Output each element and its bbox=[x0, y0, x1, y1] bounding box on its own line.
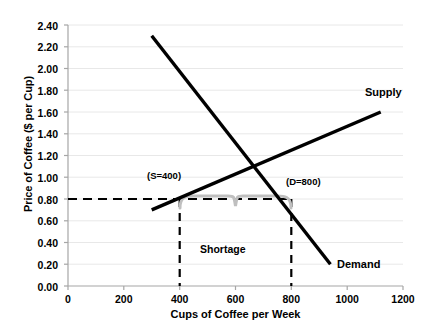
y-tick-label: 2.40 bbox=[14, 20, 58, 32]
y-tick-label: 1.40 bbox=[14, 128, 58, 140]
y-axis-title: Price of Coffee ($ per Cup) bbox=[22, 24, 34, 264]
y-tick-label: 1.20 bbox=[14, 150, 58, 162]
demand-curve-label: Demand bbox=[337, 258, 380, 270]
supply-quantity-annotation: (S=400) bbox=[147, 170, 181, 181]
supply-demand-chart bbox=[0, 0, 421, 334]
x-tick-label: 800 bbox=[266, 293, 316, 305]
x-tick-label: 1200 bbox=[378, 293, 421, 305]
y-tick-label: 0.60 bbox=[14, 215, 58, 227]
y-tick-label: 0.80 bbox=[14, 194, 58, 206]
y-tick-label: 2.20 bbox=[14, 41, 58, 53]
demand-quantity-annotation: (D=800) bbox=[286, 176, 321, 187]
y-tick-label: 0.40 bbox=[14, 237, 58, 249]
y-tick-label: 1.60 bbox=[14, 107, 58, 119]
x-tick-label: 0 bbox=[43, 293, 93, 305]
y-tick-label: 0.20 bbox=[14, 259, 58, 271]
y-tick-label: 1.00 bbox=[14, 172, 58, 184]
shortage-label: Shortage bbox=[200, 243, 246, 255]
y-tick-label: 2.00 bbox=[14, 63, 58, 75]
shortage-brace bbox=[180, 196, 291, 208]
x-axis-title: Cups of Coffee per Week bbox=[68, 308, 403, 320]
y-tick-label: 0.00 bbox=[14, 281, 58, 293]
x-tick-label: 400 bbox=[155, 293, 205, 305]
demand-curve bbox=[152, 36, 331, 264]
y-tick-label: 1.80 bbox=[14, 85, 58, 97]
x-tick-label: 600 bbox=[211, 293, 261, 305]
x-tick-label: 1000 bbox=[322, 293, 372, 305]
supply-curve-label: Supply bbox=[365, 86, 402, 98]
x-tick-label: 200 bbox=[99, 293, 149, 305]
